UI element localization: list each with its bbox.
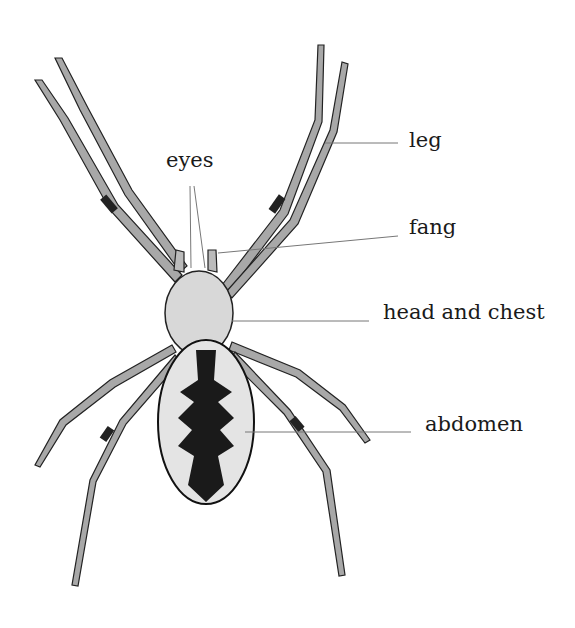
- label-head-and-chest: head and chest: [383, 302, 545, 323]
- label-fang: fang: [409, 217, 456, 238]
- spider-diagram: eyes leg fang head and chest abdomen: [0, 0, 575, 628]
- label-eyes: eyes: [166, 150, 214, 171]
- label-abdomen: abdomen: [425, 414, 523, 435]
- label-leg: leg: [409, 130, 442, 151]
- fangs: [174, 250, 217, 272]
